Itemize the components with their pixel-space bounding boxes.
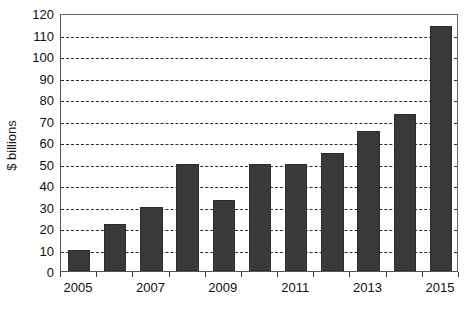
plot-area [60,14,458,272]
y-axis-tick-label: 50 [40,158,54,171]
y-axis-tick-label: 20 [40,223,54,236]
x-axis-tick-label: 2009 [208,280,237,296]
bar [213,200,235,271]
y-axis-tick-label: 0 [47,266,54,279]
y-axis-tick-label: 80 [40,94,54,107]
bars-group [61,15,457,271]
bar [357,131,379,271]
x-axis-tick [96,272,97,277]
bar [176,164,198,272]
x-axis-tick [349,272,350,277]
x-axis-tick-label: 2005 [64,280,93,296]
y-axis-tick-labels: 0102030405060708090100110120 [22,14,58,272]
x-axis-tick [132,272,133,277]
x-axis-tick [205,272,206,277]
bar-chart: $ billions 0102030405060708090100110120 … [0,0,464,312]
y-axis-tick-label: 120 [32,8,54,21]
y-axis-tick-label: 100 [32,51,54,64]
y-axis-tick-label: 10 [40,244,54,257]
bar [321,153,343,271]
x-axis-tick [313,272,314,277]
x-axis-tick [422,272,423,277]
x-axis-tick-label: 2007 [136,280,165,296]
y-axis-tick-label: 70 [40,115,54,128]
x-axis-tick [60,272,61,277]
y-axis-tick-label: 60 [40,137,54,150]
y-axis-tick-label: 90 [40,72,54,85]
y-axis-title-label: $ billions [4,120,19,171]
x-axis-tick [386,272,387,277]
y-axis-tick-label: 110 [33,29,54,42]
y-axis-tick-label: 30 [40,201,54,214]
bar [249,164,271,272]
bar [68,250,90,272]
y-axis-title: $ billions [0,0,22,290]
x-axis-ticks [60,272,458,278]
bar [430,26,452,271]
x-axis-tick [169,272,170,277]
x-axis-tick-label: 2011 [281,280,309,296]
bar [285,164,307,272]
bar [394,114,416,271]
x-axis-tick-label: 2015 [425,280,454,296]
bar [104,224,126,271]
y-axis-tick-label: 40 [40,180,54,193]
x-axis-tick [277,272,278,277]
x-axis-tick-labels: 200520072009201120132015 [60,280,458,302]
bar [140,207,162,272]
x-axis-tick [241,272,242,277]
x-axis-tick [458,272,459,277]
x-axis-tick-label: 2013 [353,280,382,296]
